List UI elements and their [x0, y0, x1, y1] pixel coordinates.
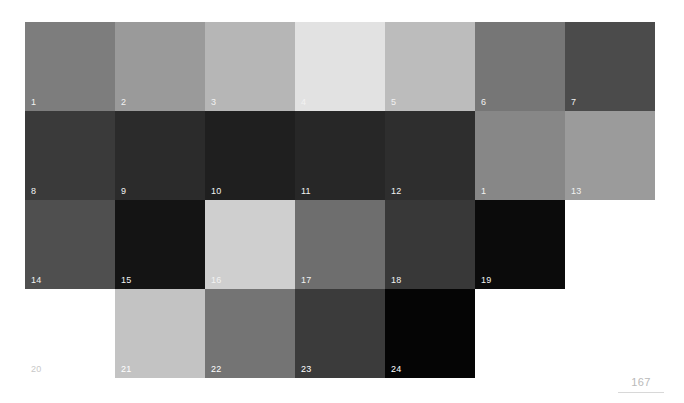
- swatch-label: 7: [571, 97, 576, 107]
- swatch-label: 10: [211, 186, 221, 196]
- color-swatch-16-r3c3: 16: [205, 200, 295, 289]
- swatch-label: 2: [121, 97, 126, 107]
- swatch-label: 24: [391, 364, 401, 374]
- swatch-label: 1: [31, 97, 36, 107]
- color-swatch-chart: 1234567891011121131415161718192021222324: [0, 0, 684, 403]
- color-swatch-7-r1c7: 7: [565, 22, 655, 111]
- swatch-label: 4: [301, 97, 306, 107]
- swatch-label: 5: [391, 97, 396, 107]
- color-swatch-13-r2c7: 13: [565, 111, 655, 200]
- swatch-label: 9: [121, 186, 126, 196]
- footer-divider: [618, 392, 664, 393]
- swatch-label: 13: [571, 186, 581, 196]
- color-swatch-18-r3c5: 18: [385, 200, 475, 289]
- color-swatch-21-r4c2: 21: [115, 289, 205, 378]
- swatch-label: 19: [481, 275, 491, 285]
- color-swatch-5-r1c5: 5: [385, 22, 475, 111]
- color-swatch-15-r3c2: 15: [115, 200, 205, 289]
- swatch-label: 22: [211, 364, 221, 374]
- swatch-label: 21: [121, 364, 131, 374]
- swatch-label: 3: [211, 97, 216, 107]
- swatch-label: 12: [391, 186, 401, 196]
- color-swatch-1-r1c1: 1: [25, 22, 115, 111]
- swatch-label: 14: [31, 275, 41, 285]
- color-swatch-22-r4c3: 22: [205, 289, 295, 378]
- page-footer: 167: [618, 376, 664, 393]
- color-swatch-17-r3c4: 17: [295, 200, 385, 289]
- swatch-label: 20: [31, 364, 41, 374]
- swatch-label: 16: [211, 275, 221, 285]
- color-swatch-12-r2c5: 12: [385, 111, 475, 200]
- swatch-label: 8: [31, 186, 36, 196]
- color-swatch-20-r4c1: 20: [25, 289, 115, 378]
- color-swatch-24-r4c5: 24: [385, 289, 475, 378]
- color-swatch-1-r2c6: 1: [475, 111, 565, 200]
- color-swatch-6-r1c6: 6: [475, 22, 565, 111]
- color-swatch-9-r2c2: 9: [115, 111, 205, 200]
- color-swatch-8-r2c1: 8: [25, 111, 115, 200]
- swatch-label: 17: [301, 275, 311, 285]
- swatch-label: 23: [301, 364, 311, 374]
- color-swatch-4-r1c4: 4: [295, 22, 385, 111]
- swatch-label: 18: [391, 275, 401, 285]
- color-swatch-19-r3c6: 19: [475, 200, 565, 289]
- page-number: 167: [618, 376, 664, 389]
- color-swatch-3-r1c3: 3: [205, 22, 295, 111]
- color-swatch-2-r1c2: 2: [115, 22, 205, 111]
- swatch-label: 6: [481, 97, 486, 107]
- color-swatch-11-r2c4: 11: [295, 111, 385, 200]
- color-swatch-14-r3c1: 14: [25, 200, 115, 289]
- color-swatch-23-r4c4: 23: [295, 289, 385, 378]
- swatch-label: 15: [121, 275, 131, 285]
- swatch-label: 1: [481, 186, 486, 196]
- color-swatch-10-r2c3: 10: [205, 111, 295, 200]
- swatch-label: 11: [301, 186, 311, 196]
